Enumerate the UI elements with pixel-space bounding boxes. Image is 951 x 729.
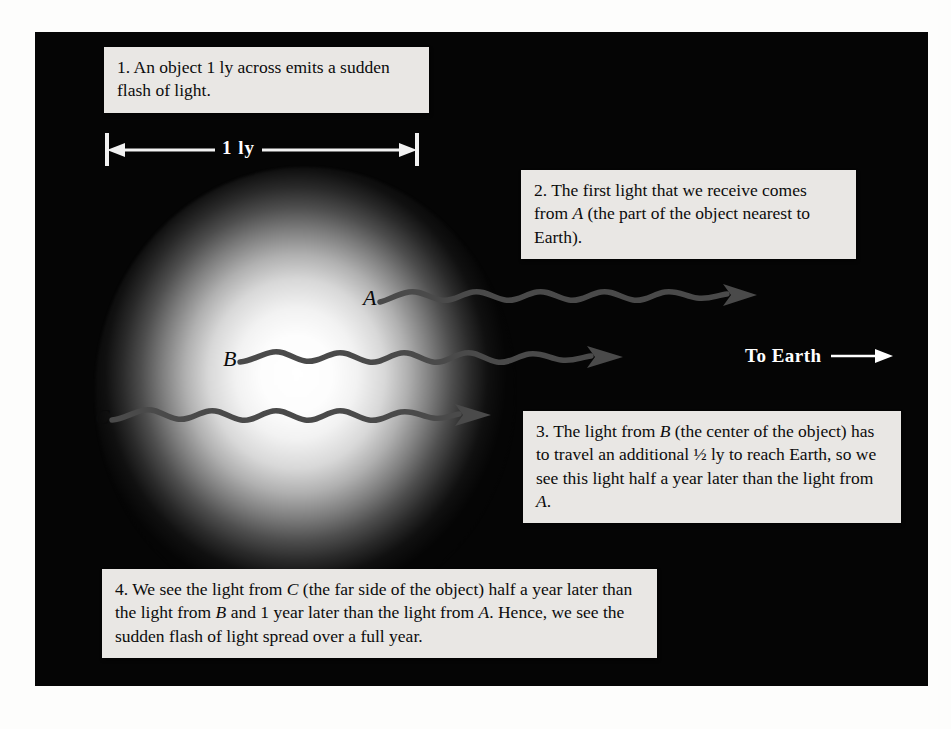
ray-label-C: C (95, 404, 110, 430)
scale-bar-label: 1 ly (215, 131, 262, 165)
ray-label-B: B (223, 346, 236, 372)
light-ray-B (235, 334, 635, 384)
to-earth-arrow-icon (831, 347, 895, 365)
caption-box-1: 1. An object 1 ly across emits a sudden … (104, 47, 429, 113)
to-earth-marker: To Earth (745, 345, 895, 367)
ray-label-A: A (363, 285, 376, 311)
page-background: 1 ly A B C To Earth 1. An object 1 ly ac… (0, 0, 951, 729)
caption-box-2: 2. The first light that we receive comes… (521, 170, 856, 259)
figure-frame: 1 ly A B C To Earth 1. An object 1 ly ac… (35, 32, 928, 686)
to-earth-label: To Earth (745, 345, 822, 367)
caption-box-3: 3. The light from B (the center of the o… (523, 411, 901, 523)
light-ray-A (375, 272, 775, 322)
light-ray-C (107, 392, 497, 442)
caption-box-4: 4. We see the light from C (the far side… (102, 569, 657, 658)
